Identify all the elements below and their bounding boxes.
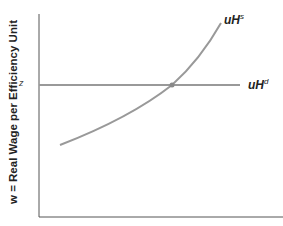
- diagram-canvas: [0, 0, 283, 226]
- supply-curve-label: uHs: [224, 12, 244, 27]
- equilibrium-point: [170, 83, 175, 88]
- demand-curve-label: uHd: [248, 77, 268, 92]
